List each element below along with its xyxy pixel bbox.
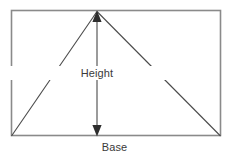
triangle-diagram: Height Base [0, 0, 232, 158]
height-label: Height [0, 66, 194, 80]
base-label: Base [0, 141, 229, 153]
